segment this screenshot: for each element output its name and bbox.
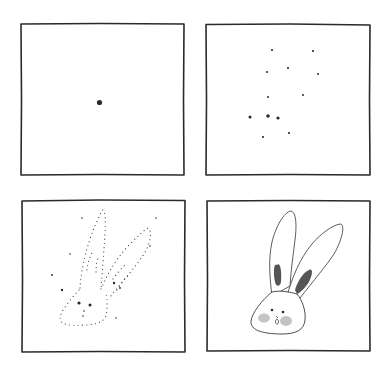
panel-step-1 <box>21 24 184 176</box>
bunny-drawing <box>251 211 343 334</box>
right-eye <box>282 311 285 314</box>
panel-step-2 <box>206 24 370 175</box>
panel-step-4 <box>207 201 370 352</box>
left-eye <box>271 309 274 312</box>
panel-frame <box>206 24 370 175</box>
center-dot <box>97 100 102 105</box>
left-cheek <box>258 314 270 323</box>
head <box>251 291 305 334</box>
dotted-outline <box>60 210 151 325</box>
panel-step-3 <box>22 200 185 352</box>
guide-dots <box>249 49 320 138</box>
panel-frame <box>21 24 184 176</box>
face-and-stray-dots <box>51 217 157 319</box>
right-cheek <box>280 316 292 326</box>
panel-frame <box>22 200 185 352</box>
